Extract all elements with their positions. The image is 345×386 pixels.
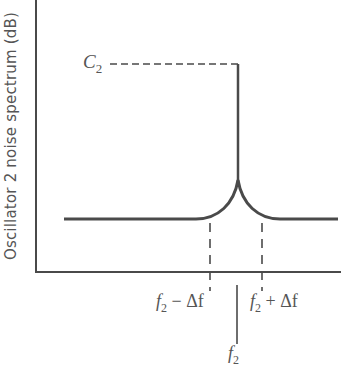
tick-label-f2: f2 bbox=[228, 343, 239, 368]
c2-label: C2 bbox=[83, 51, 102, 77]
y-axis-label: Oscillator 2 noise spectrum (dB) bbox=[2, 1, 24, 271]
spectrum-curve bbox=[64, 180, 338, 219]
tick-label-f2-plus-df: f2 + Δf bbox=[250, 291, 298, 316]
tick-label-f2-minus-df: f2 − Δf bbox=[156, 291, 204, 316]
noise-spectrum-diagram bbox=[0, 0, 345, 386]
